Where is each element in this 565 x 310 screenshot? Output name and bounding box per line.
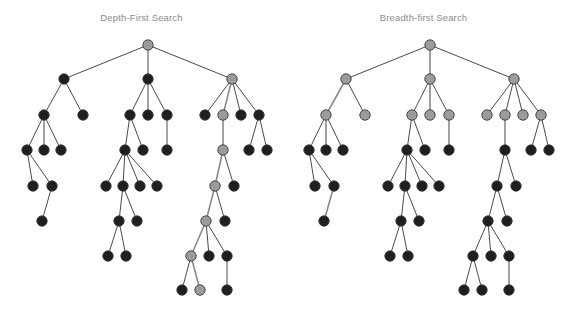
tree-node bbox=[526, 145, 536, 155]
tree-edge bbox=[27, 115, 44, 150]
tree-edge bbox=[125, 150, 140, 186]
tree-node-visited bbox=[518, 110, 528, 120]
tree-node bbox=[143, 110, 153, 120]
tree-node bbox=[504, 251, 514, 261]
tree-node bbox=[39, 145, 49, 155]
tree-node-visited bbox=[218, 145, 228, 155]
tree-edge bbox=[148, 45, 232, 79]
tree-node bbox=[420, 145, 430, 155]
tree-node bbox=[486, 251, 496, 261]
tree-node bbox=[414, 216, 424, 226]
tree-node bbox=[162, 110, 172, 120]
tree-node-visited bbox=[227, 74, 237, 84]
tree-edge bbox=[405, 186, 419, 221]
tree-node-visited bbox=[218, 110, 228, 120]
tree-node-visited bbox=[536, 110, 546, 120]
tree-node bbox=[200, 110, 210, 120]
tree-node bbox=[22, 145, 32, 155]
tree-node bbox=[403, 251, 413, 261]
tree-node bbox=[37, 216, 47, 226]
tree-node-visited bbox=[509, 74, 519, 84]
tree-edge bbox=[346, 45, 430, 79]
tree-edge-highlighted bbox=[326, 79, 346, 115]
tree-node bbox=[120, 145, 130, 155]
tree-node bbox=[338, 145, 348, 155]
tree-node bbox=[321, 145, 331, 155]
tree-node-visited bbox=[425, 74, 435, 84]
tree-edge-highlighted bbox=[191, 221, 206, 256]
tree-node-visited bbox=[201, 216, 211, 226]
tree-node-visited bbox=[186, 251, 196, 261]
tree-graph-breadth-first-search bbox=[282, 0, 565, 310]
tree-node bbox=[385, 251, 395, 261]
tree-node bbox=[28, 181, 38, 191]
tree-node bbox=[132, 216, 142, 226]
tree-node bbox=[329, 181, 339, 191]
tree-node bbox=[417, 181, 427, 191]
tree-node-visited bbox=[360, 110, 370, 120]
tree-edge bbox=[130, 79, 148, 115]
tree-node bbox=[434, 181, 444, 191]
tree-graph-depth-first-search bbox=[0, 0, 283, 310]
tree-node bbox=[402, 145, 412, 155]
tree-node bbox=[152, 181, 162, 191]
tree-node bbox=[162, 145, 172, 155]
tree-node bbox=[121, 251, 131, 261]
node-layer bbox=[304, 40, 554, 295]
tree-node bbox=[220, 216, 230, 226]
tree-node-visited bbox=[425, 110, 435, 120]
tree-edge bbox=[412, 79, 430, 115]
tree-node bbox=[483, 216, 493, 226]
tree-edge bbox=[148, 79, 167, 115]
tree-node bbox=[500, 145, 510, 155]
tree-edge bbox=[430, 45, 514, 79]
tree-node-visited bbox=[195, 285, 205, 295]
tree-node bbox=[444, 145, 454, 155]
tree-node bbox=[114, 216, 124, 226]
tree-node bbox=[177, 285, 187, 295]
tree-edge bbox=[326, 115, 343, 150]
tree-node bbox=[544, 145, 554, 155]
tree-node bbox=[78, 110, 88, 120]
tree-node bbox=[222, 285, 232, 295]
tree-edge bbox=[407, 150, 422, 186]
tree-node-visited bbox=[143, 40, 153, 50]
tree-node bbox=[229, 181, 239, 191]
figure-canvas: Depth-First Search Breadth-first Search bbox=[0, 0, 565, 310]
tree-node bbox=[310, 181, 320, 191]
tree-node bbox=[236, 110, 246, 120]
tree-edge bbox=[309, 115, 326, 150]
tree-node-visited bbox=[444, 110, 454, 120]
tree-node bbox=[101, 181, 111, 191]
tree-node bbox=[204, 251, 214, 261]
tree-node-visited bbox=[500, 110, 510, 120]
tree-node bbox=[396, 216, 406, 226]
tree-edge bbox=[64, 79, 83, 115]
tree-node bbox=[47, 181, 57, 191]
tree-node bbox=[504, 285, 514, 295]
tree-node bbox=[319, 216, 329, 226]
tree-edge bbox=[346, 79, 365, 115]
tree-node bbox=[400, 181, 410, 191]
tree-node bbox=[244, 145, 254, 155]
tree-edge bbox=[44, 115, 61, 150]
tree-edge bbox=[27, 150, 52, 186]
tree-node bbox=[222, 251, 232, 261]
tree-node bbox=[143, 74, 153, 84]
tree-node-visited bbox=[407, 110, 417, 120]
tree-edge bbox=[64, 45, 148, 79]
tree-node bbox=[492, 181, 502, 191]
tree-node bbox=[459, 285, 469, 295]
tree-node-visited bbox=[425, 40, 435, 50]
tree-node bbox=[56, 145, 66, 155]
panel-depth-first-search: Depth-First Search bbox=[0, 0, 283, 310]
tree-node bbox=[138, 145, 148, 155]
tree-edge bbox=[430, 79, 449, 115]
tree-node bbox=[304, 145, 314, 155]
tree-node-visited bbox=[341, 74, 351, 84]
tree-edge bbox=[44, 79, 64, 115]
tree-node bbox=[468, 251, 478, 261]
tree-node bbox=[383, 181, 393, 191]
tree-node bbox=[59, 74, 69, 84]
tree-node bbox=[262, 145, 272, 155]
